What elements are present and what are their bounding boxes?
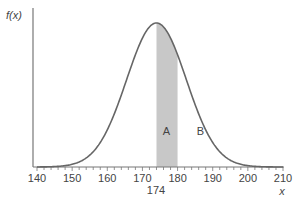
- x-axis-ticks: [37, 167, 283, 171]
- mean-label: 174: [147, 184, 165, 196]
- shaded-region: [156, 23, 177, 167]
- x-tick-label: 150: [63, 172, 81, 184]
- region-label: A: [163, 125, 171, 137]
- x-tick-label: 160: [98, 172, 116, 184]
- region-label: B: [197, 125, 204, 137]
- x-tick-label: 200: [239, 172, 257, 184]
- x-axis-label: x: [278, 185, 285, 197]
- region-annotations: AB: [163, 125, 204, 137]
- x-tick-label: 170: [133, 172, 151, 184]
- normal-distribution-chart: f(x) x 174 AB 140150160170180190200210: [0, 0, 307, 211]
- y-axis-label: f(x): [6, 9, 22, 21]
- x-tick-label: 210: [274, 172, 292, 184]
- x-tick-label: 190: [204, 172, 222, 184]
- x-tick-labels: 140150160170180190200210: [28, 172, 292, 184]
- x-tick-label: 140: [28, 172, 46, 184]
- x-tick-label: 180: [168, 172, 186, 184]
